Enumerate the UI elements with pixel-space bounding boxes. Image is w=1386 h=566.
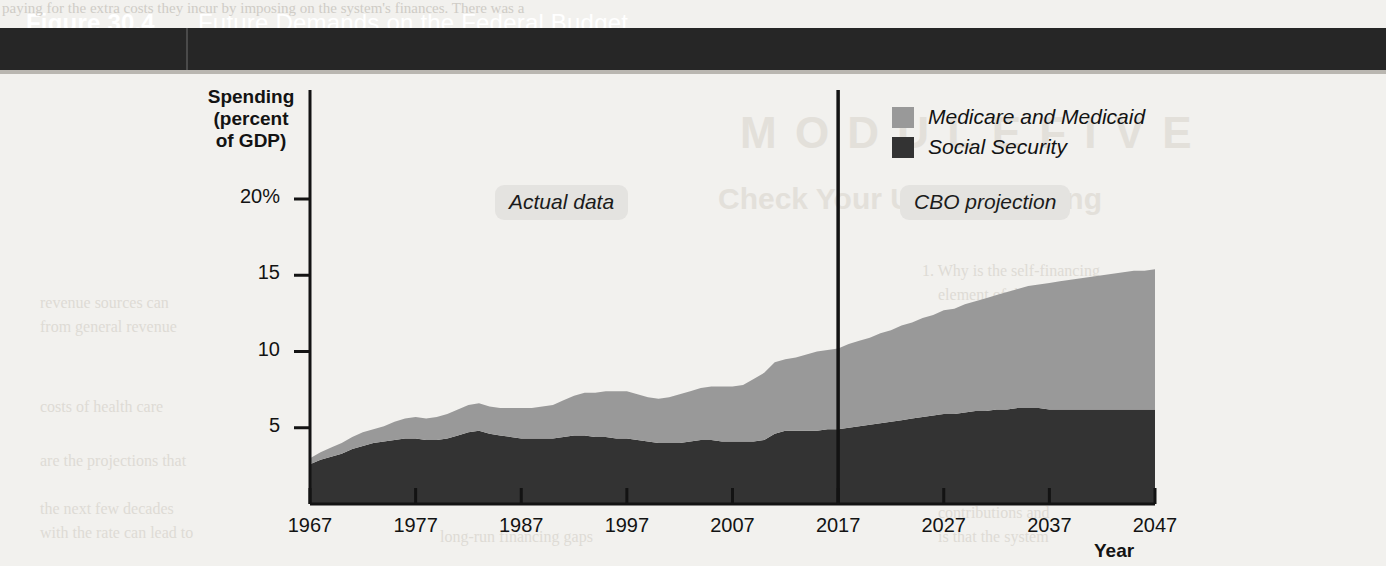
y-tick-label: 5 [210, 414, 280, 437]
x-tick-label: 2017 [798, 514, 878, 537]
y-axis-title-line-1: Spending [192, 86, 310, 108]
legend-item-medicare: Medicare and Medicaid [892, 102, 1145, 132]
x-tick-label: 1987 [481, 514, 561, 537]
x-axis-title: Year [1094, 540, 1134, 562]
y-tick-label: 10 [210, 338, 280, 361]
x-tick-label: 1997 [587, 514, 667, 537]
figure-title-bar [0, 28, 1386, 70]
legend-swatch-social-security-icon [892, 137, 914, 158]
x-tick-label: 1977 [376, 514, 456, 537]
chart-legend: Medicare and Medicaid Social Security [892, 102, 1145, 162]
annotation-actual-data: Actual data [495, 185, 628, 220]
x-tick-label: 2027 [904, 514, 984, 537]
y-tick-label: 20% [210, 185, 280, 208]
legend-swatch-medicare-icon [892, 107, 914, 128]
page-running-text: paying for the extra costs they incur by… [0, 0, 1386, 26]
annotation-cbo-projection: CBO projection [900, 185, 1070, 220]
y-axis-title-line-2: (percent [192, 108, 310, 130]
y-axis-title-line-3: of GDP) [192, 130, 310, 152]
legend-label-medicare: Medicare and Medicaid [928, 105, 1145, 129]
y-tick-label: 15 [210, 261, 280, 284]
y-axis-title: Spending (percent of GDP) [192, 86, 310, 152]
chart-area: Spending (percent of GDP) Year 5101520% … [0, 74, 1386, 566]
x-tick-label: 2007 [693, 514, 773, 537]
x-tick-label: 2047 [1115, 514, 1195, 537]
legend-item-social-security: Social Security [892, 132, 1145, 162]
x-tick-label: 2037 [1009, 514, 1089, 537]
title-divider [186, 28, 188, 70]
x-tick-label: 1967 [270, 514, 350, 537]
legend-label-social-security: Social Security [928, 135, 1067, 159]
